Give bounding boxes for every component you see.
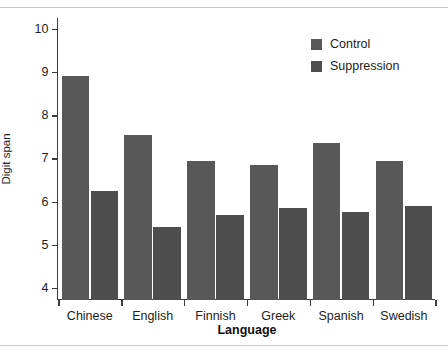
x-tick-label: English [132, 309, 173, 323]
legend-item-control: Control [311, 33, 400, 55]
x-tick-label: Greek [261, 309, 295, 323]
x-tick-mark [184, 300, 185, 306]
bar-finnish-control [187, 161, 215, 300]
x-tick-mark [247, 300, 248, 306]
top-divider-rule [0, 7, 448, 8]
y-tick-label: 6 [41, 195, 48, 209]
bar-chinese-control [62, 76, 90, 300]
figure: 45678910 ChineseEnglishFinnishGreekSpani… [0, 0, 448, 363]
legend-label: Control [330, 37, 370, 51]
x-tick-mark [58, 300, 59, 306]
bottom-divider-rule [0, 345, 448, 346]
x-tick-mark [121, 300, 122, 306]
bar-spanish-suppression [342, 212, 370, 300]
bar-chinese-suppression [91, 191, 119, 300]
legend-swatch-icon [311, 61, 322, 72]
bar-english-control [124, 135, 152, 300]
y-tick-label: 8 [41, 108, 48, 122]
chart-legend: ControlSuppression [311, 33, 400, 77]
legend-label: Suppression [330, 59, 400, 73]
bar-swedish-suppression [405, 206, 433, 300]
bar-spanish-control [313, 143, 341, 300]
x-tick-mark [435, 300, 436, 306]
y-axis-title: Digit span [0, 133, 12, 184]
y-tick-label: 5 [41, 238, 48, 252]
y-tick-label: 4 [41, 281, 48, 295]
y-tick-label: 7 [41, 151, 48, 165]
legend-item-suppression: Suppression [311, 55, 400, 77]
y-tick-label: 9 [41, 65, 48, 79]
x-tick-label: Spanish [319, 309, 364, 323]
bar-greek-control [250, 165, 278, 300]
x-tick-label: Finnish [195, 309, 235, 323]
x-tick-label: Swedish [380, 309, 427, 323]
bar-english-suppression [153, 227, 181, 300]
bar-greek-suppression [279, 208, 307, 300]
x-tick-label: Chinese [67, 309, 113, 323]
y-tick-label: 10 [34, 22, 48, 36]
x-axis-title: Language [217, 323, 276, 337]
x-tick-mark [373, 300, 374, 306]
legend-swatch-icon [311, 39, 322, 50]
bar-finnish-suppression [216, 215, 244, 301]
bar-swedish-control [376, 161, 404, 300]
x-tick-mark [310, 300, 311, 306]
